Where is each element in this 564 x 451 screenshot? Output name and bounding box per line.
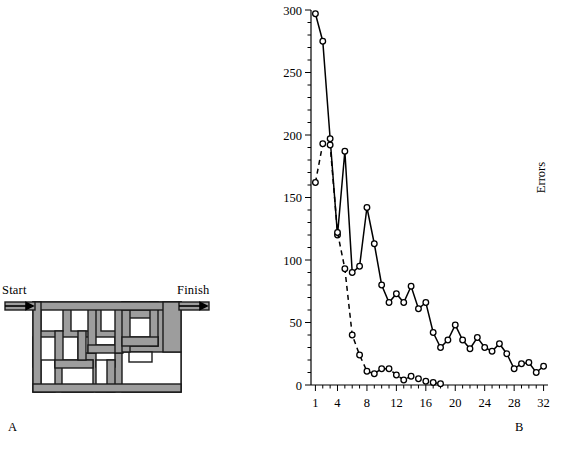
x-tick-label: 1 xyxy=(312,396,318,410)
data-point-ant xyxy=(379,282,385,288)
data-point-rat xyxy=(364,368,370,374)
data-point-ant xyxy=(497,341,503,347)
x-tick-label: 32 xyxy=(537,396,550,410)
data-point-ant xyxy=(504,351,510,357)
data-point-ant xyxy=(342,148,348,154)
x-tick-label: 28 xyxy=(508,396,520,410)
y-axis-ticks: 050100150200250300 xyxy=(283,4,311,393)
data-point-rat xyxy=(349,332,355,338)
data-point-ant xyxy=(489,348,495,354)
panel-b-chart: 050100150200250300148121620242832 Errors… xyxy=(250,0,564,451)
y-tick-label: 50 xyxy=(290,316,303,330)
data-point-rat xyxy=(394,372,400,378)
y-tick-label: 150 xyxy=(283,191,302,205)
data-point-ant xyxy=(430,330,436,336)
panel-label-a: A xyxy=(8,420,17,435)
x-tick-label: 24 xyxy=(478,396,491,410)
data-point-ant xyxy=(401,300,407,306)
maze-svg xyxy=(0,275,230,400)
data-point-ant xyxy=(482,345,488,351)
data-point-rat xyxy=(386,366,392,372)
chart-axes xyxy=(311,10,548,385)
data-point-ant xyxy=(438,345,444,351)
data-point-ant xyxy=(423,300,429,306)
data-point-ant xyxy=(364,205,370,211)
data-point-rat xyxy=(320,141,326,147)
data-point-ant xyxy=(467,346,473,352)
figure-root: Start Finish xyxy=(0,0,564,451)
data-point-rat xyxy=(423,378,429,384)
y-axis-title: Errors xyxy=(534,143,549,213)
data-point-ant xyxy=(511,366,517,372)
data-point-ant xyxy=(452,322,458,328)
x-tick-label: 4 xyxy=(334,396,341,410)
series-ant xyxy=(313,11,547,375)
x-tick-label: 20 xyxy=(449,396,462,410)
data-point-ant xyxy=(475,335,481,341)
y-tick-label: 0 xyxy=(296,379,302,393)
data-point-ant xyxy=(519,361,525,367)
y-tick-label: 100 xyxy=(283,254,302,268)
panel-a-maze: Start Finish xyxy=(0,0,260,451)
data-point-ant xyxy=(526,360,532,366)
data-point-rat xyxy=(430,380,436,386)
y-tick-label: 200 xyxy=(283,129,302,143)
data-point-ant xyxy=(349,270,355,276)
x-tick-label: 12 xyxy=(390,396,403,410)
data-point-rat xyxy=(371,371,377,377)
x-axis-ticks: 148121620242832 xyxy=(312,385,550,410)
data-point-rat xyxy=(416,376,422,382)
data-point-rat xyxy=(313,180,319,186)
data-point-ant xyxy=(394,291,400,297)
data-point-rat xyxy=(401,377,407,383)
data-point-ant xyxy=(357,263,363,269)
data-point-ant xyxy=(416,306,422,312)
data-point-ant xyxy=(445,337,451,343)
data-point-ant xyxy=(313,11,319,17)
data-point-ant xyxy=(327,136,333,142)
data-point-rat xyxy=(408,373,414,379)
data-point-ant xyxy=(541,363,547,369)
series-line-ant xyxy=(315,14,543,373)
data-point-ant xyxy=(408,283,414,289)
data-point-rat xyxy=(327,142,333,148)
data-point-rat xyxy=(342,266,348,272)
data-point-ant xyxy=(386,300,392,306)
chart-svg: 050100150200250300148121620242832 xyxy=(250,0,564,451)
data-point-rat xyxy=(379,366,385,372)
y-tick-label: 300 xyxy=(283,4,302,18)
x-tick-label: 16 xyxy=(420,396,433,410)
data-point-ant xyxy=(320,38,326,44)
data-point-rat xyxy=(438,381,444,387)
panel-label-b: B xyxy=(515,420,523,435)
data-point-ant xyxy=(460,337,466,343)
y-tick-label: 250 xyxy=(283,66,302,80)
data-point-ant xyxy=(371,241,377,247)
maze-graphic xyxy=(0,275,230,400)
data-point-ant xyxy=(533,370,539,376)
x-tick-label: 8 xyxy=(364,396,370,410)
data-point-rat xyxy=(357,352,363,358)
data-point-rat xyxy=(335,230,341,236)
